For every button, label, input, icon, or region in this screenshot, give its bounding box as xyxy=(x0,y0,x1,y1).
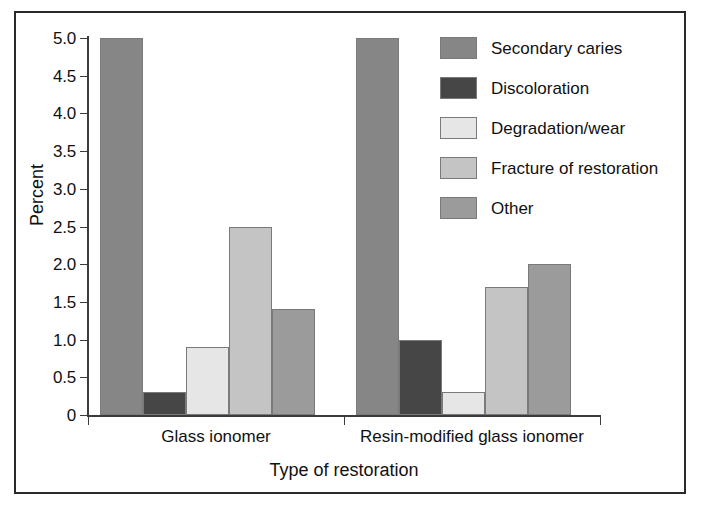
y-axis-tick-label: 2.0 xyxy=(20,256,76,273)
bar xyxy=(442,392,485,415)
bar xyxy=(100,38,143,415)
y-axis-tick-labels: 5.04.54.03.53.02.52.01.51.00.50 xyxy=(14,0,76,516)
y-axis-tick-label: 0.5 xyxy=(20,369,76,386)
y-axis-tick xyxy=(80,76,88,77)
x-axis-tick xyxy=(600,416,601,425)
y-axis-tick xyxy=(80,340,88,341)
legend-item-label: Degradation/wear xyxy=(491,120,625,137)
y-axis-tick xyxy=(80,151,88,152)
color-swatch-icon xyxy=(440,117,477,139)
y-axis-tick xyxy=(80,113,88,114)
legend-item-label: Discoloration xyxy=(491,80,589,97)
y-axis-tick xyxy=(80,302,88,303)
y-axis-tick-label: 0 xyxy=(20,407,76,424)
y-axis-tick-label: 4.0 xyxy=(20,105,76,122)
legend-item-label: Other xyxy=(491,200,534,217)
chart-legend: Secondary cariesDiscolorationDegradation… xyxy=(440,28,690,228)
x-axis-tick xyxy=(344,416,345,425)
y-axis-tick xyxy=(80,264,88,265)
color-swatch-icon xyxy=(440,157,477,179)
y-axis-tick-label: 4.5 xyxy=(20,68,76,85)
y-axis-tick xyxy=(80,38,88,39)
y-axis-tick xyxy=(80,227,88,228)
bar xyxy=(229,227,272,416)
figure-container: 5.04.54.03.53.02.52.01.51.00.50 Percent … xyxy=(0,0,703,516)
bar xyxy=(143,392,186,415)
y-axis-tick xyxy=(80,415,88,416)
legend-item: Degradation/wear xyxy=(440,108,690,148)
y-axis-tick-label: 1.5 xyxy=(20,294,76,311)
x-axis-title: Type of restoration xyxy=(88,461,600,479)
x-axis-group-label: Resin-modified glass ionomer xyxy=(344,428,600,445)
color-swatch-icon xyxy=(440,77,477,99)
bar xyxy=(186,347,229,415)
y-axis-tick xyxy=(80,189,88,190)
legend-item-label: Secondary caries xyxy=(491,40,622,57)
bar xyxy=(272,309,315,415)
bar xyxy=(356,38,399,415)
legend-item: Secondary caries xyxy=(440,28,690,68)
legend-item: Fracture of restoration xyxy=(440,148,690,188)
bar xyxy=(399,340,442,415)
x-axis-group-label: Glass ionomer xyxy=(88,428,344,445)
legend-item: Other xyxy=(440,188,690,228)
bar xyxy=(485,287,528,415)
y-axis-title: Percent xyxy=(28,135,46,255)
x-axis-tick xyxy=(88,416,89,425)
y-axis-tick-label: 5.0 xyxy=(20,30,76,47)
legend-item-label: Fracture of restoration xyxy=(491,160,658,177)
y-axis-tick xyxy=(80,377,88,378)
y-axis-tick-label: 1.0 xyxy=(20,332,76,349)
color-swatch-icon xyxy=(440,37,477,59)
color-swatch-icon xyxy=(440,197,477,219)
caption-remnant xyxy=(18,503,678,513)
bar xyxy=(528,264,571,415)
legend-item: Discoloration xyxy=(440,68,690,108)
